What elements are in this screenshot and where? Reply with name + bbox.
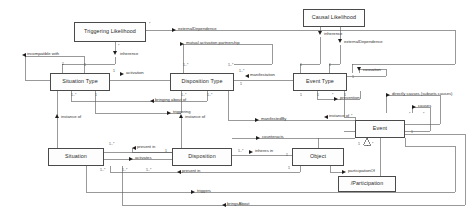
- class-name-object: Object: [310, 154, 326, 160]
- multiplicity-label: 1: [286, 154, 288, 158]
- edge-label-instance-of-event: instance of: [329, 114, 349, 118]
- multiplicity-label: *: [372, 143, 373, 147]
- class-name-situation: Situation: [65, 154, 87, 160]
- arrowhead-icon-manifestation: [245, 74, 249, 78]
- multiplicity-label: 1: [95, 94, 97, 98]
- edge-label-directly-causes: directly causes (subsets causes): [392, 92, 453, 96]
- class-box-event-type[interactable]: Event Type: [293, 73, 347, 91]
- class-box-object[interactable]: Object: [292, 148, 344, 166]
- class-name-disposition-type: Disposition Type: [181, 79, 222, 85]
- edge-label-manifestation: manifestation: [250, 73, 275, 77]
- arrowhead-icon-inherence-right: [318, 31, 322, 35]
- multiplicity-label: 1..*: [100, 169, 105, 173]
- multiplicity-label: 1..*: [239, 70, 244, 74]
- edge-label-prevention: prevention: [340, 96, 360, 100]
- arrowhead-icon-directly-causes: [386, 93, 390, 97]
- edge-label-manifested-by: manifestedBy: [261, 117, 286, 121]
- class-name-causal-likelihood: Causal Likelihood: [312, 15, 356, 21]
- multiplicity-label: 1: [300, 94, 302, 98]
- class-name-event-type: Event Type: [306, 79, 334, 85]
- multiplicity-label: 1: [84, 64, 86, 68]
- edge-label-activation: activation: [126, 71, 144, 75]
- arrowhead-icon-external-dependence-top: [172, 28, 176, 32]
- class-name-disposition: Disposition: [188, 154, 215, 160]
- edge-label-inheres-in: inheres in: [255, 149, 273, 153]
- arrowhead-icon-present-in-top: [132, 146, 136, 150]
- arrowhead-icon-inheres-in: [249, 150, 253, 154]
- multiplicity-label: 1: [113, 70, 115, 74]
- edge-label-activates: activates: [135, 156, 152, 160]
- class-box-disposition-type[interactable]: Disposition Type: [170, 73, 234, 91]
- generalization-triangle-icon: [364, 138, 371, 145]
- class-name-triggering-likelihood: Triggering Likelihood: [84, 29, 136, 35]
- multiplicity-label: 1: [62, 63, 64, 67]
- edge-label-brings-about: bringsAbout: [227, 202, 249, 206]
- class-box-causal-likelihood[interactable]: Causal Likelihood: [303, 9, 365, 27]
- multiplicity-label: 1: [344, 94, 346, 98]
- arrowhead-icon-triggers: [191, 190, 195, 194]
- multiplicity-label: 1..*: [109, 143, 114, 147]
- multiplicity-label: 1: [288, 167, 290, 171]
- arrowhead-icon-instance-of-event: [324, 115, 328, 119]
- edge-label-instance-of-disposition: instance of: [185, 115, 205, 119]
- class-name-event: Event: [373, 126, 387, 132]
- multiplicity-label: *: [409, 113, 410, 117]
- edge-label-instance-of-situation: instance of: [61, 115, 81, 119]
- class-box-situation[interactable]: Situation: [48, 148, 104, 166]
- arrowhead-icon-brings-about: [222, 203, 226, 207]
- arrowhead-icon-incompatible-with: [22, 53, 26, 57]
- multiplicity-label: 1: [240, 83, 242, 87]
- multiplicity-label: 1: [329, 64, 331, 68]
- class-name-participation: /Participation: [351, 181, 384, 187]
- arrowhead-icon-bringing-about-of: [150, 99, 154, 103]
- edge-label-external-dependence-top: externalDependence: [178, 27, 217, 31]
- multiplicity-label: 1: [352, 76, 354, 80]
- arrowhead-icon-mutual-activation-partnership: [180, 42, 184, 46]
- multiplicity-label: *: [332, 94, 333, 98]
- arrowhead-icon-inherence-top: [113, 51, 117, 55]
- edge-label-mutual-activation-partnership: mutual activation partnership: [186, 41, 240, 45]
- edge-label-causation: causation: [363, 68, 381, 72]
- arrowhead-icon-participation-of: [342, 170, 346, 174]
- multiplicity-label: *: [118, 45, 119, 49]
- multiplicity-label: 1..*: [71, 94, 76, 98]
- class-box-event[interactable]: Event: [355, 120, 405, 138]
- arrowhead-icon-prevention: [334, 97, 338, 101]
- multiplicity-label: 1..*: [181, 94, 186, 98]
- edge-label-causes: causes: [418, 104, 431, 108]
- multiplicity-label: 1..*: [146, 169, 151, 173]
- edge-label-participation-of: participationOf: [348, 169, 375, 173]
- arrowhead-icon-present-in-bottom: [177, 170, 181, 174]
- class-box-disposition[interactable]: Disposition: [172, 148, 232, 166]
- multiplicity-label: 1: [358, 143, 360, 147]
- uml-class-diagram: Triggering Likelihood Causal Likelihood …: [0, 0, 474, 222]
- multiplicity-label: *: [149, 23, 150, 27]
- arrowhead-icon-triggering: [167, 111, 171, 115]
- edge-label-present-in-top: present in: [137, 145, 155, 149]
- arrowhead-icon-causation: [357, 67, 361, 71]
- multiplicity-label: 1..*: [228, 64, 233, 68]
- arrowhead-icon-counteracts: [256, 136, 260, 140]
- multiplicity-label: 1..*: [238, 150, 243, 154]
- connector-lines: [0, 0, 474, 222]
- multiplicity-label: *: [423, 113, 424, 117]
- class-name-situation-type: Situation Type: [62, 79, 97, 85]
- multiplicity-label: 1: [165, 150, 167, 154]
- arrowhead-icon-instance-of-situation: [55, 114, 59, 118]
- edge-label-inherence-top: inherence: [120, 52, 138, 56]
- arrowhead-icon-manifested-by: [255, 118, 259, 122]
- arrowhead-icon-causes: [412, 105, 416, 109]
- arrowhead-icon-activation: [120, 72, 124, 76]
- multiplicity-label: 1..*: [183, 64, 188, 68]
- arrowhead-icon-activates: [129, 157, 133, 161]
- class-box-participation[interactable]: /Participation: [338, 176, 396, 192]
- edge-label-inherence-right: inherence: [324, 32, 342, 36]
- class-box-situation-type[interactable]: Situation Type: [50, 73, 110, 91]
- class-box-triggering-likelihood[interactable]: Triggering Likelihood: [74, 22, 146, 42]
- edge-label-external-dependence-right: externalDependence: [344, 40, 383, 44]
- multiplicity-label: 1..*: [122, 169, 127, 173]
- arrowhead-icon-external-dependence-right: [338, 39, 342, 43]
- edge-label-bringing-about-of: bringing about of: [155, 98, 186, 102]
- multiplicity-label: 1: [411, 131, 413, 135]
- edge-label-incompatible-with: incompatible with: [27, 52, 59, 56]
